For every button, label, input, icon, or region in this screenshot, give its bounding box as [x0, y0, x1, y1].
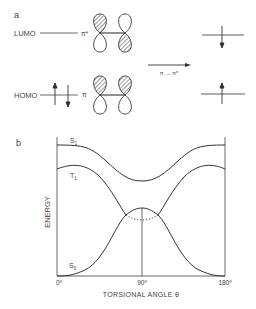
excited-homo-level [201, 83, 245, 104]
homo-orbitals-icon [94, 76, 132, 114]
lumo-orbitals-icon [94, 14, 132, 52]
tick-90: 90º [137, 279, 147, 286]
s1-label: S1 [70, 137, 78, 146]
homo-label: HOMO [14, 91, 37, 100]
pi-label: π [82, 91, 87, 98]
plot-frame [57, 137, 225, 276]
panel-b-label: b [16, 138, 21, 148]
s1-curve [57, 145, 225, 181]
s0-curve [57, 208, 225, 276]
lumo-label: LUMO [14, 29, 36, 38]
excited-lumo-level [202, 26, 244, 48]
pi-star-label: π* [81, 30, 88, 37]
transition-arrow-icon [148, 63, 191, 67]
x-axis-label: TORSIONAL ANGLE θ [103, 291, 179, 298]
y-axis-label: ENERGY [43, 196, 52, 228]
s0-label: S0 [69, 262, 77, 271]
transition-label: π → π* [160, 70, 179, 76]
tick-0: 0º [56, 279, 63, 286]
panel-a-label: a [14, 10, 19, 20]
diagram-canvas: a LUMO π* HOMO π π → π* [0, 0, 256, 309]
tick-180: 180º [218, 279, 232, 286]
t1-label: T1 [70, 172, 77, 181]
